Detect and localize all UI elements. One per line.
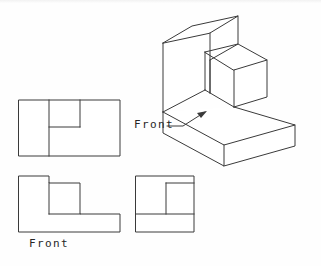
- label-front-view: Front: [29, 238, 69, 249]
- front-view: [19, 176, 120, 232]
- drawing-sheet: Front Front: [0, 0, 321, 266]
- side-view: [136, 176, 194, 232]
- label-front-isometric: Front: [134, 119, 174, 130]
- front-view-face: [19, 176, 120, 232]
- top-view: [19, 100, 120, 156]
- top-view-face: [19, 100, 120, 156]
- side-view-face: [136, 176, 194, 232]
- technical-drawing-canvas: [0, 0, 321, 266]
- isometric-view: [163, 16, 295, 166]
